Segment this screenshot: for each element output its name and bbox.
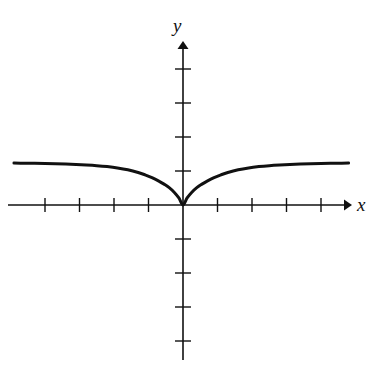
y-axis-label: y [173,16,181,35]
graph-figure: y x [0,0,373,365]
function-curve [14,163,349,205]
cartesian-plot [0,0,373,365]
x-axis-label: x [357,195,365,214]
y-axis-arrow-icon [178,41,189,49]
x-axis-arrow-icon [344,200,352,211]
